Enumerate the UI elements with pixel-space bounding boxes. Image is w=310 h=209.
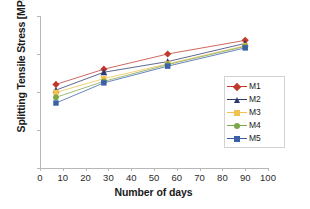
legend-swatch-icon — [225, 93, 249, 106]
legend-swatch-icon — [225, 119, 249, 132]
legend-label: M5 — [249, 132, 261, 145]
data-point-marker — [243, 45, 248, 50]
data-point-marker — [101, 80, 106, 85]
legend-label: M3 — [249, 106, 261, 119]
x-tick-label: 90 — [233, 172, 257, 183]
legend-label: M2 — [249, 93, 261, 106]
legend-item-m3[interactable]: M3 — [225, 106, 284, 119]
x-tick-label: 70 — [188, 172, 212, 183]
data-point-marker — [164, 50, 171, 57]
x-tick-mark — [86, 168, 87, 171]
x-tick-label: 30 — [96, 172, 120, 183]
x-tick-label: 40 — [119, 172, 143, 183]
x-tick-mark — [245, 168, 246, 171]
x-tick-label: 80 — [210, 172, 234, 183]
series-line — [56, 43, 245, 90]
x-axis-title: Number of days — [36, 186, 271, 198]
x-tick-mark — [108, 168, 109, 171]
legend-swatch-icon — [225, 132, 249, 145]
x-tick-label: 100 — [256, 172, 280, 183]
splitting-tensile-stress-chart: Splitting Tensile Stress [MPa] 01234 010… — [0, 0, 310, 209]
series-line — [56, 46, 245, 97]
x-tick-label: 20 — [74, 172, 98, 183]
y-axis-title: Splitting Tensile Stress [MPa] — [15, 0, 27, 142]
legend-marker — [233, 82, 241, 90]
x-tick-mark — [154, 168, 155, 171]
chart-legend: M1M2M3M4M5 — [224, 76, 285, 148]
x-tick-label: 0 — [28, 172, 52, 183]
x-tick-mark — [222, 168, 223, 171]
data-point-marker — [165, 63, 170, 68]
legend-swatch-icon — [225, 80, 249, 93]
x-tick-mark — [63, 168, 64, 171]
x-tick-label: 60 — [165, 172, 189, 183]
legend-item-m4[interactable]: M4 — [225, 119, 284, 132]
x-tick-mark — [177, 168, 178, 171]
data-point-marker — [53, 100, 58, 105]
legend-marker — [234, 136, 240, 142]
x-tick-mark — [200, 168, 201, 171]
legend-item-m1[interactable]: M1 — [225, 80, 284, 93]
data-point-marker — [53, 90, 58, 95]
legend-item-m2[interactable]: M2 — [225, 93, 284, 106]
legend-swatch-icon — [225, 106, 249, 119]
series-line — [56, 40, 245, 84]
x-tick-mark — [40, 168, 41, 171]
legend-marker — [234, 110, 240, 116]
legend-label: M1 — [249, 80, 261, 93]
legend-marker — [234, 97, 240, 103]
data-point-marker — [53, 94, 59, 100]
series-m5 — [53, 45, 248, 106]
x-tick-mark — [131, 168, 132, 171]
x-tick-label: 50 — [142, 172, 166, 183]
legend-item-m5[interactable]: M5 — [225, 132, 284, 145]
x-tick-label: 10 — [51, 172, 75, 183]
legend-marker — [234, 123, 240, 129]
x-tick-mark — [268, 168, 269, 171]
legend-label: M4 — [249, 119, 261, 132]
